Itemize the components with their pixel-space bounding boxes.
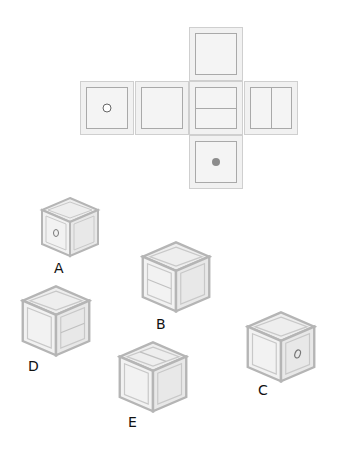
net-face-top: [189, 27, 243, 81]
option-label-e: E: [128, 414, 137, 430]
option-label-c: C: [258, 382, 268, 398]
option-label-a: A: [54, 260, 64, 276]
cube-option-d[interactable]: [18, 284, 94, 360]
net-face-blank: [135, 81, 189, 135]
dot-icon: [212, 158, 220, 166]
net-face-right: [244, 81, 298, 135]
cube-option-a[interactable]: [38, 196, 102, 260]
net-face-ring: [80, 81, 134, 135]
net-face-center: [189, 81, 243, 135]
cube-option-b[interactable]: [138, 240, 214, 316]
option-label-d: D: [28, 358, 39, 374]
net-face-bottom: [189, 135, 243, 189]
cube-option-e[interactable]: [115, 340, 191, 416]
ring-icon: [103, 104, 112, 113]
option-label-b: B: [156, 316, 166, 332]
cube-option-c[interactable]: [243, 310, 319, 386]
